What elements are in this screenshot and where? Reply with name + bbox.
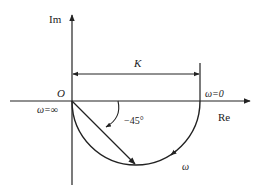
- angle-label: −45°: [124, 115, 144, 126]
- gain-label: K: [133, 57, 142, 69]
- nyquist-diagram: Im Re O K ω=0 ω=∞ −45° ω: [0, 0, 263, 190]
- nyquist-locus: [72, 101, 200, 165]
- locus-direction-arrow: [171, 151, 176, 155]
- angle-arc: [106, 101, 119, 127]
- real-axis-label: Re: [218, 111, 230, 123]
- imag-axis-label: Im: [49, 13, 62, 25]
- phase-vector: [72, 101, 135, 164]
- omega-zero-label: ω=0: [205, 88, 224, 99]
- origin-label: O: [57, 87, 65, 99]
- omega-inf-label: ω=∞: [37, 104, 58, 115]
- omega-label: ω: [182, 161, 189, 172]
